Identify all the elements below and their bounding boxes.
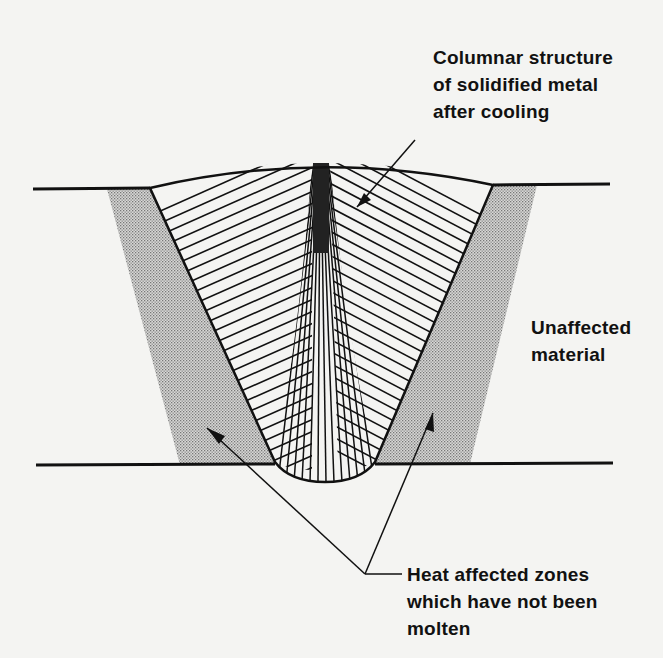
plate-bottom-left [36,464,275,465]
plate-top-left [33,188,150,189]
haz-label-line-3: molten [407,615,598,642]
haz-label-line-2: which have not been [407,588,598,615]
unaffected-material-label: Unaffected material [531,314,631,368]
columnar-label-line-3: after cooling [433,98,613,125]
plate-top-right [493,184,610,185]
unaffected-label-line-2: material [531,341,631,368]
plate-bottom-right [375,463,613,464]
unaffected-label-line-1: Unaffected [531,314,631,341]
heat-affected-zones-label: Heat affected zones which have not been … [407,561,598,642]
columnar-label-line-1: Columnar structure [433,44,613,71]
haz-label-line-1: Heat affected zones [407,561,598,588]
columnar-structure-label: Columnar structure of solidified metal a… [433,44,613,125]
columnar-label-line-2: of solidified metal [433,71,613,98]
